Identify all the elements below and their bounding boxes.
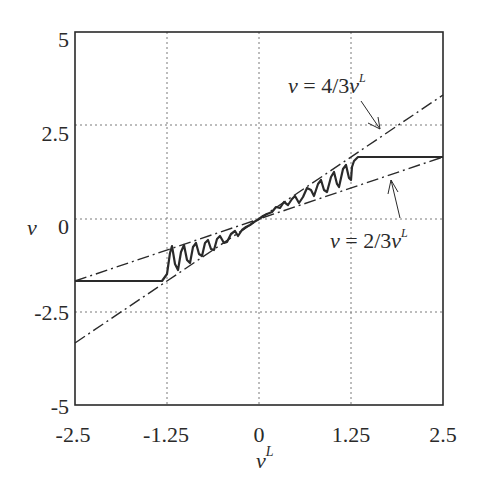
annotation-4-3: v = 4/3vL xyxy=(288,71,366,98)
x-tick-0: 0 xyxy=(254,422,265,447)
y-tick-labels: 5 2.5 0 -2.5 -5 xyxy=(34,27,69,419)
y-tick-neg5: -5 xyxy=(51,394,69,419)
x-tick-1.25: 1.25 xyxy=(332,422,371,447)
y-tick-neg2.5: -2.5 xyxy=(34,300,69,325)
x-tick-neg1.25: -1.25 xyxy=(143,422,189,447)
x-tick-2.5: 2.5 xyxy=(429,422,457,447)
annotation-2-3: v = 2/3vL xyxy=(330,226,408,253)
arrow-2-3 xyxy=(388,180,400,218)
x-axis-label: vL xyxy=(256,444,274,473)
chart: 5 2.5 0 -2.5 -5 -2.5 -1.25 0 1.25 2.5 v … xyxy=(0,0,483,494)
y-tick-0: 0 xyxy=(58,214,69,239)
y-axis-label: v xyxy=(27,215,37,240)
arrow-4-3 xyxy=(361,101,380,129)
y-tick-5: 5 xyxy=(58,27,69,52)
y-tick-2.5: 2.5 xyxy=(42,121,70,146)
x-tick-neg2.5: -2.5 xyxy=(56,422,91,447)
x-tick-labels: -2.5 -1.25 0 1.25 2.5 xyxy=(56,422,457,447)
